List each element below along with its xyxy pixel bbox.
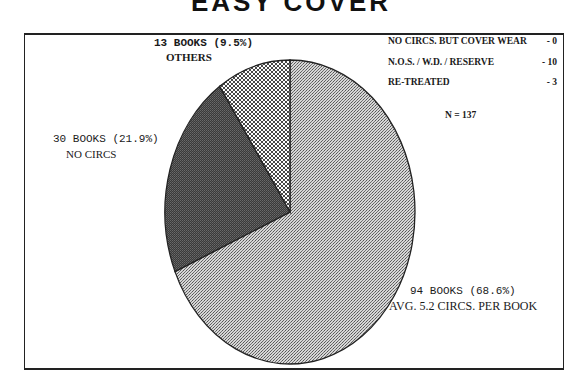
circulated-count-label: 94 BOOKS (68.6%) xyxy=(410,284,516,298)
legend-nos-label: N.O.S. / W.D. / RESERVE xyxy=(388,57,494,67)
others-name-label: OTHERS xyxy=(166,50,212,64)
others-count-label: 13 BOOKS (9.5%) xyxy=(154,36,253,50)
legend-retreated-value: - 3 xyxy=(533,77,557,87)
no-circs-name-label: NO CIRCS xyxy=(66,147,116,161)
legend-nos-value: - 10 xyxy=(533,57,557,67)
pie-chart xyxy=(0,0,582,387)
legend-cover-wear-label: NO CIRCS. BUT COVER WEAR xyxy=(388,36,527,46)
legend-retreated-label: RE-TREATED xyxy=(388,77,450,87)
circulated-desc-label: AVG. 5.2 CIRCS. PER BOOK xyxy=(389,299,537,313)
legend-cover-wear-value: - 0 xyxy=(533,36,557,46)
no-circs-count-label: 30 BOOKS (21.9%) xyxy=(53,132,159,146)
sample-size-label: N = 137 xyxy=(445,110,476,120)
